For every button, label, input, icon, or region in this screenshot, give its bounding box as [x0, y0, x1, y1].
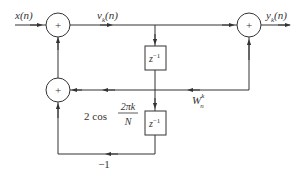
coefficient-denominator: N [124, 116, 133, 127]
coefficient-numerator: 2πk [121, 101, 136, 112]
twiddle-label: Wkn [192, 92, 205, 110]
delay-label-1: z−1 [148, 52, 161, 64]
negative-gain-label: −1 [98, 158, 110, 170]
adder-top-symbol: + [55, 19, 61, 31]
signal-flow-diagram: + + + x(n) vk(n) yk(n) z−1 z−1 2 cos 2πk… [0, 0, 301, 176]
state-label: vk(n) [97, 9, 118, 24]
delay-label-2: z−1 [148, 117, 161, 129]
adder-feedback-symbol: + [55, 84, 61, 96]
coefficient-prefix: 2 cos [84, 110, 107, 122]
adder-output-symbol: + [246, 19, 252, 31]
output-label: yk(n) [265, 9, 287, 24]
input-label: x(n) [14, 9, 33, 22]
